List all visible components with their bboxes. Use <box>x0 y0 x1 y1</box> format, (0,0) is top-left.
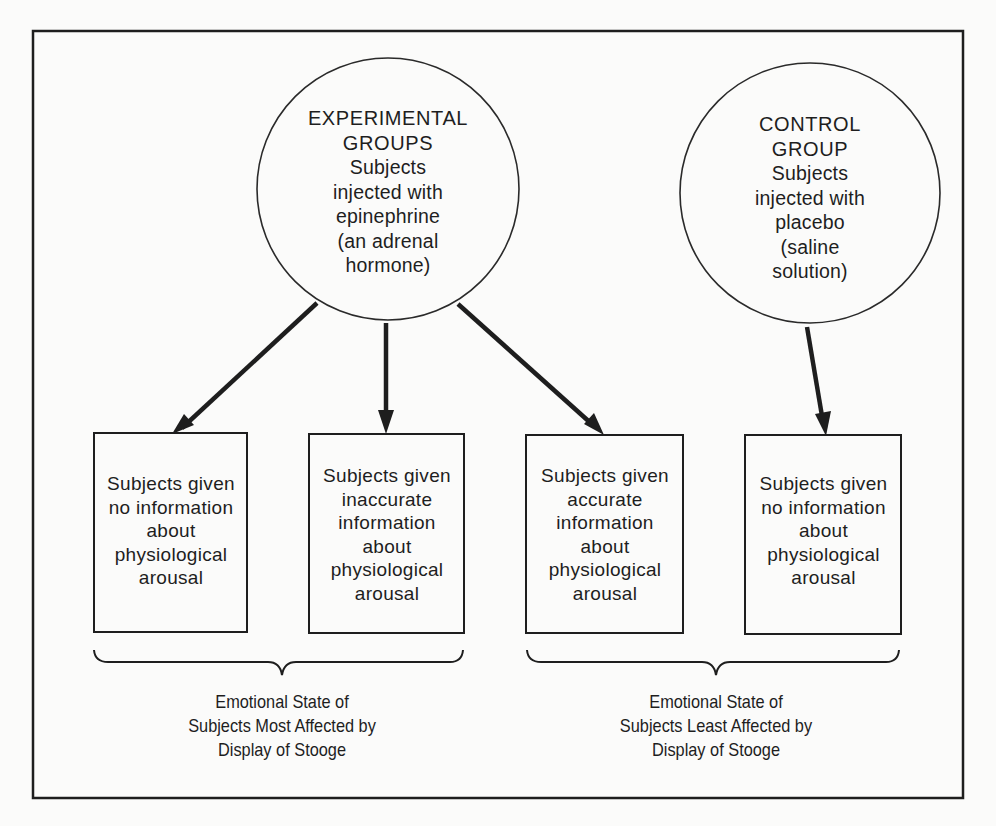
experimental-body-line-1: Subjects <box>288 155 488 180</box>
experimental-body-line-5: hormone) <box>288 253 488 278</box>
condition-4-line: no information <box>745 496 902 520</box>
condition-1-text: Subjects given no information about phys… <box>94 472 248 590</box>
condition-2-line: about <box>309 535 465 559</box>
outcome-2-line: Display of Stooge <box>604 738 828 762</box>
condition-3-line: about <box>526 535 684 559</box>
condition-4-line: arousal <box>745 566 902 590</box>
brace-most-affected <box>94 650 463 675</box>
control-title-line-1: CONTROL <box>710 112 910 137</box>
brace-least-affected <box>527 650 899 675</box>
condition-2-line: Subjects given <box>309 464 465 488</box>
condition-3-line: arousal <box>526 582 684 606</box>
condition-2-line: inaccurate <box>309 488 465 512</box>
arrow-icon <box>182 303 823 428</box>
condition-2-line: arousal <box>309 582 465 606</box>
diagram-figure: EXPERIMENTAL GROUPS Subjects injected wi… <box>0 0 996 826</box>
control-body-line-3: placebo <box>710 210 910 235</box>
condition-4-line: about <box>745 519 902 543</box>
outcome-most-affected-caption: Emotional State of Subjects Most Affecte… <box>170 690 394 762</box>
outcome-1-line: Subjects Most Affected by <box>170 714 394 738</box>
experimental-body-line-3: epinephrine <box>288 204 488 229</box>
outcome-1-line: Display of Stooge <box>170 738 394 762</box>
control-body-line-2: injected with <box>710 186 910 211</box>
control-body-line-1: Subjects <box>710 161 910 186</box>
control-body-line-5: solution) <box>710 259 910 284</box>
condition-3-line: Subjects given <box>526 464 684 488</box>
experimental-body-line-2: injected with <box>288 180 488 205</box>
control-group-label: CONTROL GROUP Subjects injected with pla… <box>710 112 910 284</box>
condition-1-line: about <box>94 519 248 543</box>
outcome-2-line: Subjects Least Affected by <box>604 714 828 738</box>
condition-3-line: physiological <box>526 558 684 582</box>
condition-4-text: Subjects given no information about phys… <box>745 472 902 590</box>
experimental-title-line-1: EXPERIMENTAL <box>288 106 488 131</box>
condition-4-line: physiological <box>745 543 902 567</box>
condition-2-text: Subjects given inaccurate information ab… <box>309 464 465 605</box>
outcome-2-line: Emotional State of <box>604 690 828 714</box>
outcome-least-affected-caption: Emotional State of Subjects Least Affect… <box>604 690 828 762</box>
condition-1-line: arousal <box>94 566 248 590</box>
condition-1-line: no information <box>94 496 248 520</box>
condition-1-line: Subjects given <box>94 472 248 496</box>
experimental-body-line-4: (an adrenal <box>288 229 488 254</box>
outcome-1-line: Emotional State of <box>170 690 394 714</box>
arrowheads <box>172 410 831 436</box>
condition-3-line: information <box>526 511 684 535</box>
condition-1-line: physiological <box>94 543 248 567</box>
condition-3-line: accurate <box>526 488 684 512</box>
condition-2-line: information <box>309 511 465 535</box>
condition-3-text: Subjects given accurate information abou… <box>526 464 684 605</box>
experimental-groups-label: EXPERIMENTAL GROUPS Subjects injected wi… <box>288 106 488 278</box>
condition-2-line: physiological <box>309 558 465 582</box>
control-title-line-2: GROUP <box>710 137 910 162</box>
experimental-title-line-2: GROUPS <box>288 131 488 156</box>
condition-4-line: Subjects given <box>745 472 902 496</box>
control-body-line-4: (saline <box>710 235 910 260</box>
